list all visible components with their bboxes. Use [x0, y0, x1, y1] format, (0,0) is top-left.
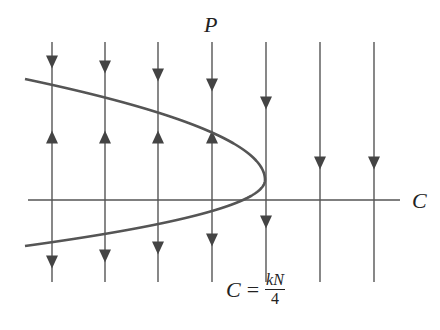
- arrow-up-icon: [152, 131, 164, 144]
- equation-denominator: 4: [271, 290, 279, 307]
- arrow-down-icon: [260, 216, 272, 229]
- equation-lhs: C: [226, 277, 241, 303]
- arrow-down-icon: [152, 242, 164, 255]
- arrow-up-icon: [99, 131, 111, 144]
- arrow-down-icon: [99, 250, 111, 263]
- arrow-down-icon: [46, 256, 58, 269]
- arrow-down-icon: [46, 56, 58, 69]
- arrow-down-icon: [368, 157, 380, 170]
- arrow-down-icon: [260, 97, 272, 110]
- y-axis-label: P: [204, 12, 217, 38]
- arrow-down-icon: [152, 69, 164, 82]
- equation-label: C = kN 4: [226, 272, 285, 307]
- arrow-up-icon: [46, 131, 58, 144]
- nullcline-curve: [25, 79, 265, 246]
- equation-fraction: kN 4: [265, 272, 285, 307]
- arrow-down-icon: [99, 61, 111, 74]
- arrow-down-icon: [314, 157, 326, 170]
- arrow-down-icon: [206, 234, 218, 247]
- arrow-down-icon: [206, 79, 218, 92]
- x-axis-label: C: [412, 188, 427, 214]
- equation-operator: =: [247, 277, 259, 303]
- phase-diagram: [0, 0, 440, 330]
- equation-numerator: kN: [265, 272, 285, 290]
